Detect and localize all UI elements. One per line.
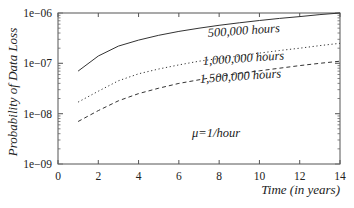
- series-labels: 500,000 hours1,000,000 hours1,500,000 ho…: [199, 21, 285, 86]
- series-label: 500,000 hours: [207, 21, 280, 40]
- series-label: 1,500,000 hours: [199, 66, 282, 86]
- y-tick-label: 1e−06: [23, 7, 52, 19]
- y-tick-label: 1e−09: [23, 158, 52, 170]
- y-tick-label: 1e−08: [23, 108, 52, 120]
- x-tick-label: 14: [334, 170, 346, 182]
- x-tick-label: 4: [136, 170, 142, 182]
- x-tick-label: 0: [55, 170, 61, 182]
- axis-ticks: [58, 13, 340, 164]
- x-tick-labels: 02468101214: [55, 170, 346, 182]
- y-axis-title: Probability of Data Loss: [5, 28, 20, 157]
- annotations: μ=1/hour: [191, 126, 240, 140]
- series-label: 1,000,000 hours: [202, 48, 285, 68]
- x-tick-label: 2: [95, 170, 101, 182]
- x-axis-title: Time (in years): [261, 182, 340, 197]
- probability-of-data-loss-chart: 02468101214 1e−091e−081e−071e−06 500,000…: [0, 0, 354, 208]
- y-tick-label: 1e−07: [23, 57, 52, 69]
- plot-frame: [58, 13, 340, 164]
- y-tick-labels: 1e−091e−081e−071e−06: [23, 7, 52, 170]
- x-tick-label: 12: [294, 170, 306, 182]
- x-tick-label: 8: [216, 170, 222, 182]
- series-line-dashed: [78, 61, 340, 121]
- x-tick-label: 6: [176, 170, 182, 182]
- mu-annotation: μ=1/hour: [191, 126, 240, 140]
- x-tick-label: 10: [254, 170, 266, 182]
